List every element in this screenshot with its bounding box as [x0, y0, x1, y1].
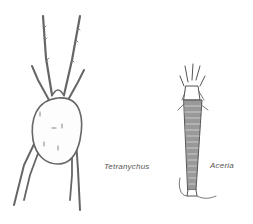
tetranychus-label: Tetranychus [104, 162, 150, 171]
mite-figure: Tetranychus Aceria [0, 0, 253, 224]
mite-illustrations [0, 0, 253, 224]
aceria-label: Aceria [210, 161, 234, 170]
tetranychus-illustration [14, 16, 84, 210]
aceria-illustration [178, 64, 216, 198]
